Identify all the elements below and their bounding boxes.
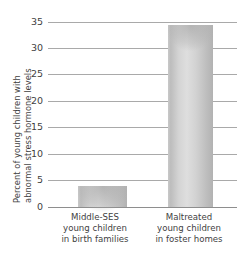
x-category-label-1: Maltreated young children in foster home… bbox=[134, 212, 244, 246]
bar-middle-ses bbox=[78, 186, 127, 207]
x-category-1-line-3: in foster homes bbox=[134, 234, 244, 245]
x-category-1-line-1: Maltreated bbox=[134, 212, 244, 223]
y-tick-label-0: 0 bbox=[4, 202, 48, 212]
bar-chart-figure: Percent of young children with abnormal … bbox=[0, 0, 247, 253]
y-tick-label-25: 25 bbox=[4, 69, 48, 79]
x-axis-category-labels: Middle-SES young children in birth famil… bbox=[48, 212, 237, 253]
y-tick-label-5: 5 bbox=[4, 175, 48, 185]
y-tick-label-10: 10 bbox=[4, 149, 48, 159]
plot-area bbox=[48, 22, 237, 207]
bar-maltreated bbox=[168, 25, 213, 207]
y-tick-label-30: 30 bbox=[4, 43, 48, 53]
y-tick-label-35: 35 bbox=[4, 17, 48, 27]
y-tick-label-15: 15 bbox=[4, 122, 48, 132]
x-category-1-line-2: young children bbox=[134, 223, 244, 234]
y-axis-tick-labels: 35 30 25 20 15 10 5 0 bbox=[0, 22, 48, 207]
y-tick-label-20: 20 bbox=[4, 96, 48, 106]
gridline-35 bbox=[48, 22, 237, 23]
